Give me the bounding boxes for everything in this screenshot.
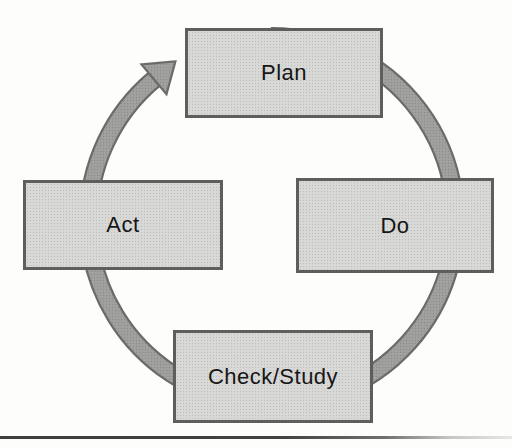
page-rule: [0, 436, 512, 439]
node-plan-label: Plan: [261, 60, 307, 86]
node-do-label: Do: [380, 213, 409, 239]
node-plan: Plan: [185, 28, 383, 118]
node-do: Do: [296, 178, 494, 273]
pdca-cycle-diagram: Plan Do Check/Study Act: [0, 0, 512, 448]
node-act-label: Act: [106, 212, 139, 238]
node-check-study-label: Check/Study: [208, 364, 338, 390]
node-check-study: Check/Study: [173, 330, 373, 423]
node-act: Act: [23, 180, 223, 270]
